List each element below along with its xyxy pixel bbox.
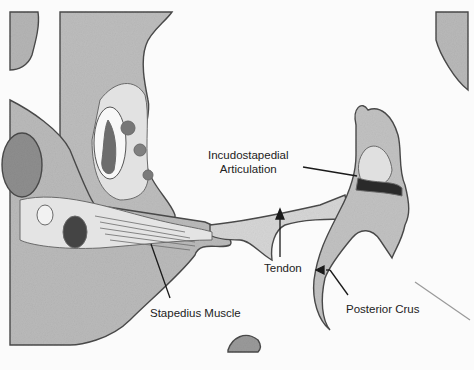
label-incudostapedial-line1: Incudostapedial [208, 148, 289, 162]
label-stapedius-muscle: Stapedius Muscle [150, 306, 241, 320]
label-tendon: Tendon [264, 261, 302, 275]
label-incudostapedial-articulation: Incudostapedial Articulation [208, 148, 289, 176]
micrograph-figure: Incudostapedial Articulation Tendon Stap… [0, 0, 474, 370]
label-posterior-crus: Posterior Crus [346, 302, 420, 316]
label-incudostapedial-line2: Articulation [208, 162, 289, 176]
